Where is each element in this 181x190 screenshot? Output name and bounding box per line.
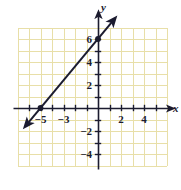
y-tick-label: 4 bbox=[76, 57, 92, 68]
axes bbox=[14, 14, 172, 170]
y-tick-label: 2 bbox=[76, 80, 92, 91]
gridlines bbox=[18, 28, 168, 167]
y-tick-label: −2 bbox=[76, 126, 92, 137]
y-tick-label: 6 bbox=[76, 34, 92, 45]
graph-canvas bbox=[0, 0, 181, 190]
x-axis-label: x bbox=[173, 103, 179, 114]
y-axis-label: y bbox=[101, 2, 106, 13]
x-tick-label: 2 bbox=[114, 114, 128, 125]
y-tick-label: −4 bbox=[76, 149, 92, 160]
x-tick-label: −3 bbox=[57, 114, 71, 125]
x-tick-label: 4 bbox=[137, 114, 151, 125]
x-tick-label: −5 bbox=[34, 114, 48, 125]
coordinate-plane-figure: −5−324642−2−4 x y bbox=[0, 0, 181, 190]
